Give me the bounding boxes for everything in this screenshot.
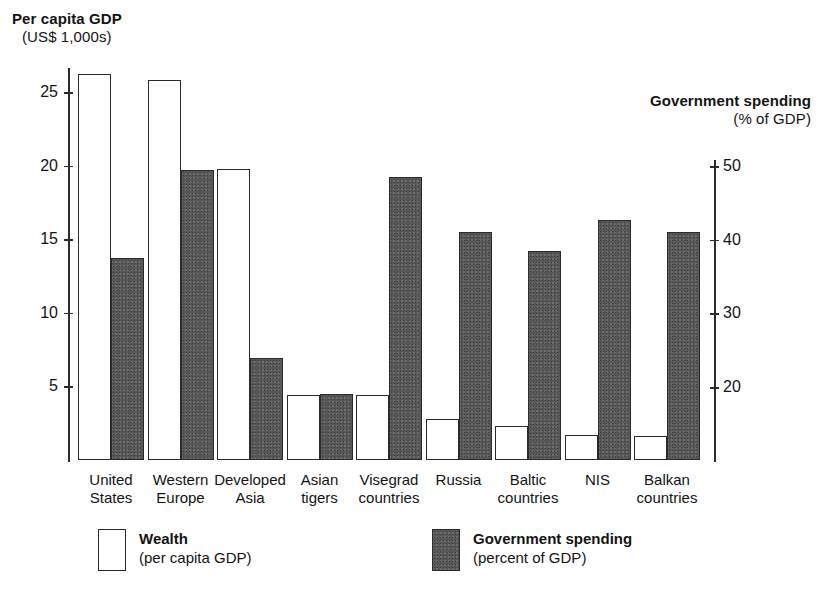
right-axis-tick-label: 30: [723, 305, 767, 321]
category-label-line: countries: [468, 489, 588, 507]
chart-figure: Per capita GDP (US$ 1,000s) Government s…: [0, 0, 824, 601]
bar-wealth: [356, 395, 389, 460]
category-label: Balkancountries: [607, 471, 727, 507]
left-axis-tick-label: 10: [14, 305, 58, 321]
left-axis-tick-label: 15: [14, 231, 58, 247]
category-label-line: countries: [329, 489, 449, 507]
bar-wealth: [217, 169, 250, 460]
bar-wealth: [634, 436, 667, 460]
right-axis-tick-label: 20: [723, 379, 767, 395]
left-axis-tick: [64, 92, 73, 94]
bar-wealth: [148, 80, 181, 460]
legend-item-wealth: Wealth (per capita GDP): [98, 529, 252, 571]
left-axis-tick: [64, 386, 73, 388]
legend-item-government-spending: Government spending (percent of GDP): [432, 529, 632, 571]
bar-government-spending: [389, 177, 422, 460]
left-axis-tick-label: 25: [14, 84, 58, 100]
bar-government-spending: [250, 358, 283, 460]
left-axis-tick: [64, 239, 73, 241]
bar-government-spending: [459, 232, 492, 460]
plot-area: 51015202520304050UnitedStatesWesternEuro…: [0, 0, 824, 601]
legend-sublabel-wealth: (per capita GDP): [139, 549, 252, 568]
bar-government-spending: [667, 232, 700, 460]
legend-swatch-government-spending: [432, 529, 460, 571]
left-axis-tick-label: 5: [14, 378, 58, 394]
legend-sublabel-government-spending: (percent of GDP): [473, 549, 632, 568]
category-label-line: countries: [607, 489, 727, 507]
bar-government-spending: [320, 394, 353, 460]
left-axis-tick: [64, 166, 73, 168]
bar-government-spending: [181, 170, 214, 460]
bar-wealth: [287, 395, 320, 460]
bar-wealth: [565, 435, 598, 460]
bar-wealth: [495, 426, 528, 460]
chart-legend: Wealth (per capita GDP) Government spend…: [0, 527, 824, 585]
right-axis-tick: [710, 387, 719, 389]
legend-swatch-wealth: [98, 529, 126, 571]
right-axis-tick: [710, 313, 719, 315]
left-axis-tick-label: 20: [14, 158, 58, 174]
right-axis-tick: [710, 166, 719, 168]
right-axis-tick-label: 50: [723, 158, 767, 174]
bar-wealth: [426, 419, 459, 460]
legend-label-wealth: Wealth: [139, 530, 252, 549]
right-axis-tick-label: 40: [723, 232, 767, 248]
bar-wealth: [78, 74, 111, 460]
bar-government-spending: [528, 251, 561, 460]
left-axis-tick: [64, 313, 73, 315]
bar-government-spending: [111, 258, 144, 460]
legend-label-government-spending: Government spending: [473, 530, 632, 549]
category-label-line: Balkan: [607, 471, 727, 489]
bar-government-spending: [598, 220, 631, 460]
right-axis-tick: [710, 240, 719, 242]
